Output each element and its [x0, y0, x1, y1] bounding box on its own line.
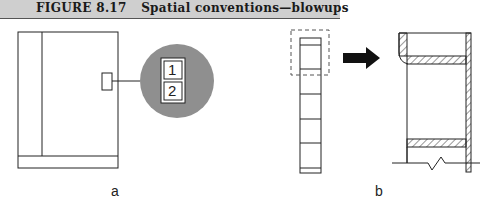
panel-b-label: b	[375, 183, 383, 199]
diagram-canvas	[0, 0, 498, 207]
blowup-callout-circle	[140, 44, 214, 118]
callout-number-1: 1	[168, 61, 176, 78]
panel-b-enlarged-section	[392, 33, 480, 172]
blowup-selection-box	[291, 30, 329, 75]
panel-a-elevation	[18, 32, 140, 168]
panel-b-strip	[300, 38, 321, 173]
callout-number-2: 2	[168, 82, 176, 99]
panel-a-label: a	[111, 183, 119, 199]
arrow-right-icon	[343, 47, 380, 69]
